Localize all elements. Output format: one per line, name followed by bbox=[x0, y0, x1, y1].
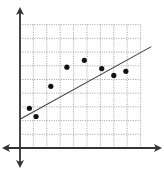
data-point bbox=[123, 69, 128, 74]
scatter-plot bbox=[0, 0, 164, 171]
data-point bbox=[111, 73, 116, 78]
axes bbox=[2, 7, 162, 168]
data-point bbox=[64, 65, 69, 70]
data-point bbox=[48, 84, 53, 89]
data-point bbox=[27, 106, 32, 111]
trend-line-segment bbox=[20, 47, 151, 120]
data-point bbox=[99, 66, 104, 71]
data-points bbox=[27, 58, 129, 119]
data-point bbox=[82, 58, 87, 63]
scatter-plot-canvas bbox=[0, 0, 164, 171]
data-point bbox=[33, 114, 38, 119]
trend-line bbox=[20, 47, 151, 120]
